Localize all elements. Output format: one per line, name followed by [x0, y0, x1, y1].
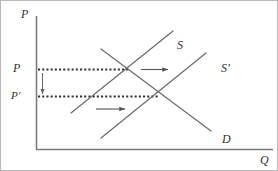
y-axis-label: P	[21, 8, 29, 20]
supply-initial-label: S	[177, 39, 183, 51]
supply-shifted-label: S'	[221, 62, 230, 74]
supply-initial-curve	[71, 31, 173, 113]
figure-canvas	[1, 1, 278, 171]
x-axis-label: Q	[260, 154, 269, 166]
supply-shifted-curve	[101, 53, 206, 138]
demand-label: D	[222, 133, 231, 145]
price-new-label: P'	[11, 90, 20, 101]
supply-demand-figure: P Q P P' S S' D	[0, 0, 278, 171]
demand-curve	[101, 49, 211, 131]
price-initial-label: P	[13, 62, 21, 74]
